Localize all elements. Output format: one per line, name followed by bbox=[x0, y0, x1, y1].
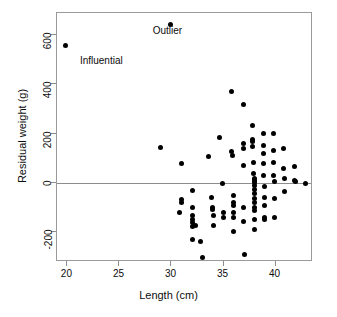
x-axis-tick bbox=[275, 261, 276, 266]
data-point bbox=[303, 181, 308, 186]
data-point bbox=[221, 215, 226, 220]
data-point bbox=[241, 219, 246, 224]
data-point bbox=[190, 237, 195, 242]
x-axis-tick-label: 40 bbox=[269, 268, 280, 279]
y-axis-tick-label: 200 bbox=[43, 131, 54, 148]
data-point bbox=[190, 205, 195, 210]
data-point bbox=[190, 188, 195, 193]
y-axis-tick-label: 400 bbox=[43, 82, 54, 99]
x-axis-title: Length (cm) bbox=[0, 289, 337, 301]
data-point bbox=[63, 43, 68, 48]
data-point bbox=[177, 210, 182, 215]
x-axis-tick-label: 30 bbox=[165, 268, 176, 279]
x-axis-tick bbox=[223, 261, 224, 266]
y-axis-title: Residual weight (g) bbox=[16, 56, 28, 216]
data-point bbox=[261, 173, 266, 178]
residual-scatter-figure: Residual weight (g) InfluentialOutlier L… bbox=[0, 0, 337, 317]
data-point bbox=[281, 146, 286, 151]
data-point bbox=[261, 151, 266, 156]
data-point bbox=[262, 184, 267, 189]
x-axis-tick-label: 20 bbox=[61, 268, 72, 279]
data-point bbox=[242, 252, 247, 257]
data-point bbox=[261, 131, 266, 136]
data-point bbox=[193, 223, 198, 228]
data-point bbox=[271, 131, 276, 136]
data-point bbox=[281, 166, 286, 171]
y-axis-tick-label: 0 bbox=[43, 181, 54, 187]
data-point bbox=[206, 154, 211, 159]
data-point bbox=[221, 210, 226, 215]
data-point bbox=[251, 160, 256, 165]
data-point bbox=[217, 135, 222, 140]
data-point bbox=[158, 145, 163, 150]
data-point bbox=[252, 227, 257, 232]
data-point bbox=[272, 179, 277, 184]
data-point bbox=[241, 163, 246, 168]
annotation-label: Outlier bbox=[153, 25, 182, 36]
data-point bbox=[271, 173, 276, 178]
x-axis-tick-label: 35 bbox=[217, 268, 228, 279]
data-point bbox=[231, 193, 236, 198]
data-point bbox=[230, 153, 235, 158]
data-point bbox=[262, 195, 267, 200]
data-point bbox=[179, 200, 184, 205]
data-point bbox=[209, 195, 214, 200]
data-point bbox=[210, 207, 215, 212]
x-axis-tick-label: 25 bbox=[113, 268, 124, 279]
data-point bbox=[282, 176, 287, 181]
data-point bbox=[220, 181, 225, 186]
data-point bbox=[241, 205, 246, 210]
y-axis-tick-label: 600 bbox=[43, 33, 54, 50]
data-point bbox=[261, 143, 266, 148]
data-point bbox=[179, 161, 184, 166]
data-point bbox=[229, 89, 234, 94]
data-point bbox=[231, 215, 236, 220]
data-point bbox=[252, 217, 257, 222]
data-point bbox=[231, 229, 236, 234]
annotation-label: Influential bbox=[80, 55, 123, 66]
y-axis-tick-label: -200 bbox=[43, 230, 54, 250]
data-point bbox=[292, 164, 297, 169]
data-point bbox=[211, 213, 216, 218]
data-point bbox=[241, 102, 246, 107]
data-point bbox=[211, 223, 216, 228]
data-point bbox=[252, 208, 257, 213]
data-point bbox=[262, 203, 267, 208]
data-point bbox=[198, 239, 203, 244]
data-point bbox=[250, 123, 255, 128]
data-point bbox=[200, 255, 205, 260]
x-axis-tick bbox=[170, 261, 171, 266]
data-point bbox=[261, 161, 266, 166]
data-point bbox=[282, 189, 287, 194]
data-point bbox=[250, 144, 255, 149]
data-point bbox=[231, 203, 236, 208]
data-point bbox=[272, 196, 277, 201]
x-axis-tick bbox=[118, 261, 119, 266]
data-point bbox=[271, 148, 276, 153]
data-point bbox=[271, 160, 276, 165]
x-axis-tick bbox=[66, 261, 67, 266]
data-point bbox=[272, 215, 277, 220]
plot-area: InfluentialOutlier bbox=[56, 12, 312, 261]
data-point bbox=[241, 146, 246, 151]
data-point bbox=[262, 217, 267, 222]
data-point bbox=[293, 179, 298, 184]
